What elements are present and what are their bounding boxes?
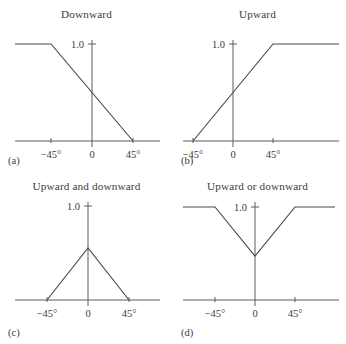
panel-a-labels: 1.0 −45° 0 45° bbox=[0, 0, 173, 172]
panel-c-letter: (c) bbox=[8, 327, 20, 338]
panel-d-xtick-label-plus45: 45° bbox=[288, 308, 303, 319]
panel-c-xtick-label-plus45: 45° bbox=[122, 308, 137, 319]
panel-b-ylabel: 1.0 bbox=[212, 39, 225, 50]
panel-c: Upward and downward 1.0 −45° 0 45° (c) bbox=[0, 172, 173, 344]
panel-c-xtick-label-minus45: −45° bbox=[37, 308, 58, 319]
panel-c-xtick-label-zero: 0 bbox=[85, 308, 90, 319]
panel-b: Upward 1.0 −45° 0 45° (b) bbox=[173, 0, 346, 172]
panel-d-ylabel: 1.0 bbox=[234, 202, 247, 213]
panel-d-letter: (d) bbox=[181, 327, 193, 338]
panel-a-letter: (a) bbox=[8, 155, 20, 166]
panel-b-labels: 1.0 −45° 0 45° bbox=[173, 0, 346, 172]
panel-b-xtick-label-plus45: 45° bbox=[266, 149, 281, 160]
panel-c-labels: 1.0 −45° 0 45° bbox=[0, 172, 173, 344]
panel-b-letter: (b) bbox=[181, 155, 193, 166]
figure-four-panel-membership-functions: Downward 1.0 −45° 0 45° (a) Upward bbox=[0, 0, 346, 344]
panel-a-ylabel: 1.0 bbox=[71, 39, 84, 50]
panel-a-xtick-label-zero: 0 bbox=[89, 149, 94, 160]
panel-d: Upward or downward 1.0 −45° 0 45° (d) bbox=[173, 172, 346, 344]
panel-a-xtick-label-plus45: 45° bbox=[126, 149, 141, 160]
panel-b-xtick-label-zero: 0 bbox=[230, 149, 235, 160]
panel-d-xtick-label-minus45: −45° bbox=[205, 308, 226, 319]
panel-d-xtick-label-zero: 0 bbox=[252, 308, 257, 319]
panel-c-ylabel: 1.0 bbox=[67, 201, 80, 212]
panel-a: Downward 1.0 −45° 0 45° (a) bbox=[0, 0, 173, 172]
panel-d-labels: 1.0 −45° 0 45° bbox=[173, 172, 346, 344]
panel-a-xtick-label-minus45: −45° bbox=[41, 149, 62, 160]
